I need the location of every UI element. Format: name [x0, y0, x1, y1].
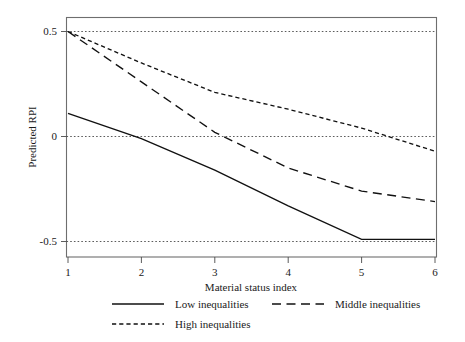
- x-tick-label-1: 2: [139, 266, 145, 278]
- series-line-low-inequalities: [68, 113, 435, 239]
- y-tick-label-2: -0.5: [40, 235, 58, 247]
- y-tick-label-1: 0: [52, 130, 58, 142]
- legend-label-low: Low inequalities: [175, 298, 249, 310]
- y-axis: 0.5 0 -0.5 Predicted RPI: [26, 25, 67, 247]
- x-axis-title: Material status index: [205, 281, 298, 293]
- x-tick-label-3: 4: [285, 266, 291, 278]
- legend-label-middle: Middle inequalities: [335, 298, 420, 310]
- y-tick-label-0: 0.5: [43, 25, 57, 37]
- x-tick-label-4: 5: [359, 266, 365, 278]
- x-tick-label-5: 6: [432, 266, 438, 278]
- series-line-high-inequalities: [68, 32, 435, 152]
- plot-frame: [67, 18, 437, 258]
- x-tick-label-2: 3: [212, 266, 218, 278]
- x-tick-label-0: 1: [65, 266, 71, 278]
- chart-legend: Low inequalities Middle inequalities Hig…: [112, 298, 420, 330]
- predicted-rpi-line-chart: 0.5 0 -0.5 Predicted RPI 1 2 3 4 5 6 Mat…: [0, 0, 465, 342]
- legend-label-high: High inequalities: [175, 318, 250, 330]
- y-axis-title: Predicted RPI: [26, 106, 38, 168]
- series-line-middle-inequalities: [68, 32, 435, 202]
- gridlines: [67, 32, 437, 242]
- figure-container: 0.5 0 -0.5 Predicted RPI 1 2 3 4 5 6 Mat…: [0, 0, 465, 342]
- x-axis: 1 2 3 4 5 6 Material status index: [65, 257, 438, 293]
- data-series-group: [68, 32, 435, 240]
